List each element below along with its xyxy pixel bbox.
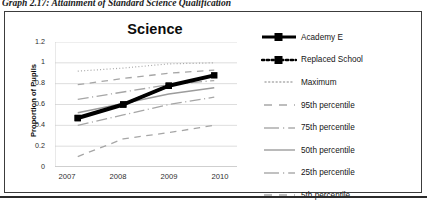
legend-key-icon bbox=[261, 166, 297, 180]
legend-item-academy-e[interactable]: Academy E bbox=[261, 26, 421, 49]
series-marker bbox=[211, 72, 217, 78]
series-line bbox=[78, 75, 215, 118]
series-marker bbox=[120, 101, 126, 107]
chart-figure-frame: Science Proportion of Pupils 1.2 1 0.8 0… bbox=[4, 11, 422, 193]
x-tick-label: 2007 bbox=[44, 172, 90, 181]
legend-key-icon bbox=[261, 30, 297, 44]
figure-caption: Graph 2.17: Attainment of Standard Scien… bbox=[2, 0, 422, 9]
chart-title: Science bbox=[65, 21, 245, 37]
y-tick-label: 0.8 bbox=[15, 79, 45, 87]
x-tick-label: 2008 bbox=[95, 172, 141, 181]
legend-item-5th-percentile[interactable]: 5th percentile bbox=[261, 184, 421, 204]
legend-key-icon bbox=[261, 75, 297, 89]
legend-item-label: 50th percentile bbox=[297, 146, 355, 155]
series-line bbox=[78, 63, 215, 71]
legend-item-95th-percentile[interactable]: 95th percentile bbox=[261, 94, 421, 117]
series-line bbox=[78, 125, 215, 156]
legend-item-replaced-school[interactable]: Replaced School bbox=[261, 49, 421, 72]
x-tick-label: 2010 bbox=[197, 172, 243, 181]
legend-item-label: Replaced School bbox=[297, 55, 363, 64]
legend-key-icon bbox=[261, 143, 297, 157]
legend-item-label: 25th percentile bbox=[297, 168, 355, 177]
y-tick-label: 0.6 bbox=[15, 100, 45, 108]
plot-area bbox=[55, 42, 237, 167]
legend-item-maximum[interactable]: Maximum bbox=[261, 71, 421, 94]
y-tick-label: 1 bbox=[15, 58, 45, 66]
chart-legend: Academy E Replaced School Maximum bbox=[261, 26, 421, 204]
series-marker bbox=[166, 83, 172, 89]
x-tick-label: 2009 bbox=[146, 172, 192, 181]
legend-key-icon bbox=[261, 98, 297, 112]
series-marker bbox=[75, 115, 81, 121]
legend-key-icon bbox=[261, 53, 297, 67]
legend-item-label: 75th percentile bbox=[297, 123, 355, 132]
legend-item-label: 95th percentile bbox=[297, 101, 355, 110]
y-tick-label: 0.2 bbox=[15, 142, 45, 150]
legend-item-25th-percentile[interactable]: 25th percentile bbox=[261, 162, 421, 185]
legend-item-50th-percentile[interactable]: 50th percentile bbox=[261, 139, 421, 162]
legend-key-icon bbox=[261, 121, 297, 135]
plot-canvas bbox=[55, 42, 237, 167]
legend-item-label: Academy E bbox=[297, 33, 343, 42]
y-tick-label: 0 bbox=[15, 163, 45, 171]
y-tick-label: 0.4 bbox=[15, 121, 45, 129]
page-bottom-rule bbox=[0, 196, 427, 198]
legend-item-75th-percentile[interactable]: 75th percentile bbox=[261, 116, 421, 139]
y-tick-label: 1.2 bbox=[15, 38, 45, 46]
legend-item-label: Maximum bbox=[297, 78, 336, 87]
